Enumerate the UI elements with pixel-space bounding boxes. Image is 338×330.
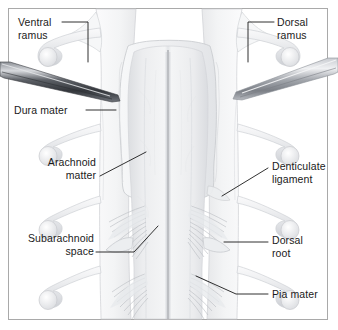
- label-arachnoid-matter: Arachnoid matter: [18, 156, 96, 181]
- label-subarachnoid-space: Subarachnoid space: [14, 232, 94, 257]
- label-ventral-ramus: Ventral ramus: [18, 16, 51, 41]
- label-denticulate-ligament: Denticulate ligament: [272, 160, 326, 185]
- spinal-cord-meninges-figure: Ventral ramus Dorsal ramus Dura mater Ar…: [0, 0, 338, 330]
- label-dorsal-root: Dorsal root: [272, 234, 303, 259]
- label-pia-mater: Pia mater: [272, 288, 318, 301]
- nerve-root-tube-right-3: [237, 196, 299, 240]
- label-dorsal-ramus: Dorsal ramus: [277, 16, 308, 41]
- label-dura-mater: Dura mater: [14, 104, 68, 117]
- nerve-root-tube-left-4: [39, 266, 101, 310]
